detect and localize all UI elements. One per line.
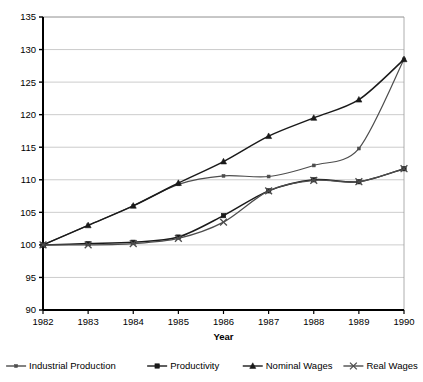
x-tick-label: 1990: [393, 316, 414, 327]
x-axis-title: Year: [213, 331, 233, 342]
x-tick-label: 1982: [32, 316, 53, 327]
x-tick-label: 1983: [78, 316, 99, 327]
y-tick-label: 120: [20, 109, 36, 120]
y-tick-label: 95: [25, 272, 36, 283]
y-tick-label: 125: [20, 77, 36, 88]
data-point-marker: [312, 164, 315, 167]
data-point-marker: [222, 174, 225, 177]
x-tick-label: 1987: [258, 316, 279, 327]
y-tick-label: 105: [20, 207, 36, 218]
data-point-marker: [221, 213, 225, 217]
data-point-marker: [155, 364, 159, 368]
y-tick-label: 90: [25, 304, 36, 315]
y-tick-label: 130: [20, 44, 36, 55]
data-point-marker: [357, 147, 360, 150]
data-point-marker: [15, 365, 18, 368]
line-chart: 9095100105110115120125130135 19821983198…: [0, 0, 423, 382]
y-tick-label: 135: [20, 11, 36, 22]
legend-label: Industrial Production: [29, 360, 116, 371]
data-point-marker: [267, 175, 270, 178]
x-tick-label: 1985: [168, 316, 189, 327]
chart-canvas: 9095100105110115120125130135 19821983198…: [0, 0, 423, 382]
x-tick-label: 1988: [303, 316, 324, 327]
y-tick-label: 100: [20, 239, 36, 250]
y-tick-label: 110: [21, 174, 36, 185]
x-tick-label: 1986: [213, 316, 234, 327]
legend-label: Productivity: [170, 360, 219, 371]
y-tick-label: 115: [21, 142, 36, 153]
legend-label: Real Wages: [366, 360, 418, 371]
legend-label: Nominal Wages: [266, 360, 333, 371]
x-tick-label: 1984: [123, 316, 144, 327]
x-tick-label: 1989: [348, 316, 369, 327]
